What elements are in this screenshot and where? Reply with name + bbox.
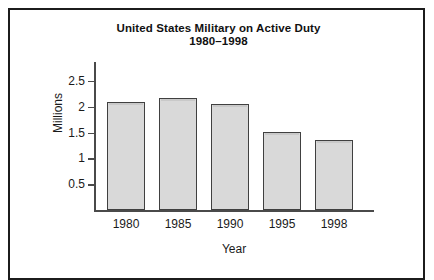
x-axis-line [94,210,374,212]
bar-top-highlight [213,105,247,107]
chart-frame-border: United States Military on Active Duty 19… [8,8,425,280]
y-tick-mark [88,81,94,83]
chart-subtitle: 1980–1998 [10,35,427,48]
bar-top-highlight [161,99,195,101]
bar-1985 [159,98,197,210]
plot-region: 0.511.522.5 19801985199019951998 Year [94,62,374,212]
bar-top-highlight [109,103,143,105]
chart-title: United States Military on Active Duty [10,22,427,35]
y-tick-label: 2.5 [68,75,85,87]
x-tick-label-1990: 1990 [217,218,244,230]
bar-1980 [107,102,145,210]
y-tick-mark [88,184,94,186]
y-tick-mark [88,133,94,135]
y-tick-mark [88,158,94,160]
y-tick-label: 0.5 [68,178,85,190]
x-tick-label-1995: 1995 [269,218,296,230]
x-axis-title: Year [94,242,374,256]
y-tick-label: 1 [78,152,85,164]
bar-1990 [211,104,249,210]
bar-1995 [263,132,301,210]
y-axis-line [94,62,96,212]
y-tick-label: 2 [78,101,85,113]
y-tick-mark [88,107,94,109]
y-axis-title: Millions [51,93,65,133]
bar-top-highlight [317,141,351,143]
bar-1998 [315,140,353,210]
chart-area: United States Military on Active Duty 19… [10,10,427,271]
x-tick-label-1998: 1998 [321,218,348,230]
chart-title-block: United States Military on Active Duty 19… [10,22,427,48]
bar-top-highlight [265,133,299,135]
x-tick-label-1985: 1985 [165,218,192,230]
x-tick-label-1980: 1980 [113,218,140,230]
y-tick-label: 1.5 [68,127,85,139]
